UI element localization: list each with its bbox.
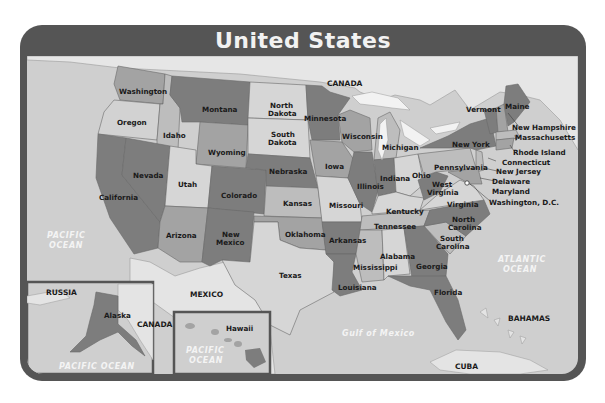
state-colorado[interactable]	[208, 166, 266, 214]
label-maine: Maine	[505, 102, 530, 111]
label-bahamas: BAHAMAS	[508, 314, 550, 323]
label-cuba: CUBA	[455, 362, 478, 371]
label-nebraska: Nebraska	[269, 167, 307, 176]
label-gulf-of-mexico: Gulf of Mexico	[342, 329, 415, 338]
label-iowa: Iowa	[325, 162, 344, 171]
label-canada-inset: CANADA	[137, 320, 173, 329]
label-atlantic-ocean-2: OCEAN	[503, 265, 537, 274]
label-indiana: Indiana	[380, 174, 410, 183]
label-alaska: Alaska	[104, 311, 131, 320]
label-russia: RUSSIA	[46, 288, 77, 297]
label-arkansas: Arkansas	[329, 236, 366, 245]
label-new-york: New York	[452, 140, 490, 149]
label-virginia: Virginia	[447, 200, 479, 209]
dc-marker-icon	[465, 181, 469, 185]
state-montana[interactable]	[170, 76, 250, 125]
label-pacific-ocean-hawaii: PACIFIC	[186, 346, 224, 355]
label-rhode-island: Rhode Island	[513, 148, 566, 157]
label-nevada: Nevada	[133, 171, 164, 180]
label-california: California	[99, 193, 138, 202]
label-pacific-ocean-hawaii-2: OCEAN	[189, 356, 223, 365]
label-pacific-ocean-2: OCEAN	[49, 241, 83, 250]
label-utah: Utah	[178, 180, 197, 189]
label-michigan: Michigan	[382, 143, 419, 152]
state-wyoming[interactable]	[196, 122, 248, 168]
label-kansas: Kansas	[283, 199, 312, 208]
label-minnesota: Minnesota	[304, 114, 346, 123]
label-louisiana: Louisiana	[338, 283, 377, 292]
label-colorado: Colorado	[221, 191, 257, 200]
label-washington-dc: Washington, D.C.	[489, 198, 559, 207]
label-vermont: Vermont	[466, 105, 501, 114]
label-delaware: Delaware	[492, 177, 530, 186]
label-montana: Montana	[202, 105, 238, 114]
label-mississippi: Mississippi	[353, 263, 397, 272]
state-washington[interactable]	[114, 66, 165, 104]
label-south-carolina-2: Carolina	[436, 242, 470, 251]
label-north-carolina-2: Carolina	[448, 223, 482, 232]
label-pennsylvania: Pennsylvania	[434, 163, 488, 172]
label-oklahoma: Oklahoma	[285, 230, 326, 239]
label-new-hampshire: New Hampshire	[512, 123, 576, 132]
label-alabama: Alabama	[380, 252, 415, 261]
label-kentucky: Kentucky	[386, 207, 424, 216]
label-new-mexico-2: Mexico	[216, 238, 244, 247]
label-florida: Florida	[434, 288, 462, 297]
label-missouri: Missouri	[329, 201, 363, 210]
label-washington: Washington	[119, 87, 167, 96]
map-title: United States	[20, 28, 586, 53]
label-connecticut: Connecticut	[502, 158, 551, 167]
label-oregon: Oregon	[117, 118, 147, 127]
label-north-dakota-2: Dakota	[268, 109, 297, 118]
label-pacific-ocean-alaska: PACIFIC OCEAN	[59, 362, 135, 371]
label-west-virginia-2: Virginia	[427, 188, 459, 197]
state-connecticut-ri[interactable]	[496, 138, 514, 150]
label-illinois: Illinois	[357, 182, 384, 191]
label-ohio: Ohio	[412, 171, 431, 180]
label-texas: Texas	[279, 271, 302, 280]
label-new-jersey: New Jersey	[496, 167, 541, 176]
label-wyoming: Wyoming	[208, 148, 246, 157]
label-maryland: Maryland	[492, 187, 530, 196]
map-canvas: Washington Oregon California Idaho Nevad…	[27, 56, 578, 374]
label-idaho: Idaho	[163, 131, 186, 140]
label-arizona: Arizona	[166, 231, 197, 240]
cuba-land	[430, 350, 548, 374]
label-south-dakota-2: Dakota	[268, 138, 297, 147]
label-tennessee: Tennessee	[374, 222, 416, 231]
label-pacific-ocean: PACIFIC	[47, 231, 85, 240]
label-wisconsin: Wisconsin	[342, 132, 383, 141]
label-mexico: MEXICO	[190, 290, 223, 299]
label-georgia: Georgia	[416, 262, 448, 271]
us-map: Washington Oregon California Idaho Nevad…	[27, 56, 578, 374]
label-canada: CANADA	[327, 79, 363, 88]
label-massachusetts: Massachusetts	[515, 133, 575, 142]
label-atlantic-ocean: ATLANTIC	[497, 255, 546, 264]
label-hawaii: Hawaii	[226, 324, 253, 333]
